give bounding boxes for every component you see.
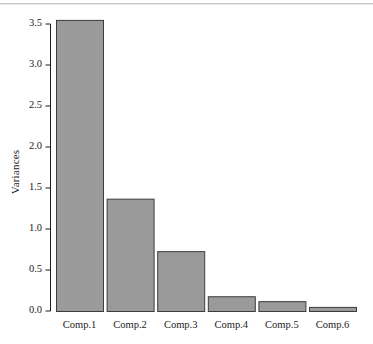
y-tick-label: 0.5 (16, 263, 42, 274)
y-tick-label: 2.5 (16, 99, 42, 110)
bar-comp-1 (57, 20, 104, 311)
x-category-label: Comp.3 (153, 319, 208, 330)
y-axis-ticks (46, 24, 51, 311)
bar-comp-5 (259, 302, 306, 312)
x-category-label: Comp.5 (254, 319, 309, 330)
bar-comp-4 (208, 297, 255, 312)
y-tick-label: 2.0 (16, 140, 42, 151)
bar-comp-6 (310, 307, 357, 311)
bar-comp-3 (158, 252, 205, 312)
scree-plot-figure: Variances 0.00.51.01.52.02.53.03.5 Comp.… (0, 0, 373, 344)
bars-group (57, 20, 357, 311)
y-tick-label: 0.0 (16, 304, 42, 315)
y-tick-label: 1.0 (16, 222, 42, 233)
plot-area: Variances 0.00.51.01.52.02.53.03.5 Comp.… (0, 0, 373, 344)
y-tick-label: 3.5 (16, 17, 42, 28)
y-tick-label: 1.5 (16, 181, 42, 192)
bar-comp-2 (107, 199, 154, 311)
plot-canvas (0, 0, 373, 344)
x-category-label: Comp.2 (103, 319, 158, 330)
x-category-label: Comp.4 (204, 319, 259, 330)
x-category-label: Comp.6 (305, 319, 360, 330)
y-tick-label: 3.0 (16, 58, 42, 69)
x-category-label: Comp.1 (52, 319, 107, 330)
